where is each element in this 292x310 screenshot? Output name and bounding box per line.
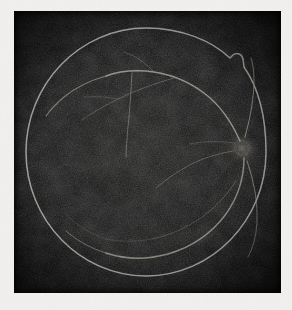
fundus-photograph-plate	[14, 11, 281, 293]
retina-vessel-overlay	[14, 11, 281, 293]
optic-disc	[226, 132, 258, 164]
image-canvas	[0, 0, 292, 310]
